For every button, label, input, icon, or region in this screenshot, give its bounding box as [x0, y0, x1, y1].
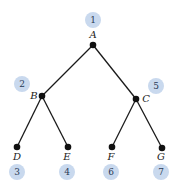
- edge-a-c: [93, 45, 136, 99]
- order-badge-number: 5: [153, 81, 159, 91]
- node-e: [65, 144, 72, 151]
- order-badge-number: 1: [90, 15, 96, 25]
- node-label-f: F: [107, 151, 116, 162]
- node-label-d: D: [12, 151, 21, 162]
- node-d: [14, 144, 21, 151]
- order-badge-number: 2: [19, 79, 25, 89]
- node-a: [90, 42, 97, 49]
- order-badge-number: 7: [158, 167, 164, 177]
- node-label-b: B: [29, 90, 37, 101]
- node-label-a: A: [88, 29, 96, 40]
- node-b: [39, 93, 46, 100]
- node-f: [109, 144, 116, 151]
- tree-diagram: ABDECFG 1234567: [0, 0, 176, 192]
- node-label-e: E: [62, 151, 71, 162]
- edge-b-d: [17, 96, 42, 147]
- edge-a-b: [42, 45, 93, 96]
- node-label-c: C: [142, 93, 150, 104]
- node-c: [133, 96, 140, 103]
- node-label-g: G: [157, 151, 165, 162]
- edge-c-g: [136, 99, 162, 148]
- order-badge-number: 4: [64, 167, 70, 177]
- order-badge-number: 3: [14, 167, 20, 177]
- order-badge-number: 6: [108, 167, 114, 177]
- edge-c-f: [112, 99, 136, 147]
- edge-b-e: [42, 96, 68, 147]
